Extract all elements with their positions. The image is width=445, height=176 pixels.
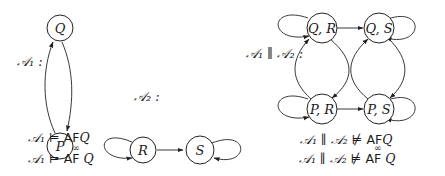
edge-qr-self-loop [278,15,309,37]
state-s: S [186,136,214,164]
svg-text:R: R [137,143,148,158]
formula-a1-af-inf-q: 𝒜₁ ⊨ A∞F Q [28,151,94,167]
automaton-product: Q, R Q, S P, R P, S [278,13,415,124]
svg-text:P, S: P, S [366,102,390,117]
automaton-a2-label: 𝒜₂ : [134,89,160,105]
infinity-mark: ∞ [374,143,381,153]
edge-pr-self-loop [278,96,309,118]
state-q-s: Q, S [364,13,394,43]
edge-r-self-loop [104,138,132,158]
state-p-s: P, S [364,94,394,124]
formula-product-af-inf-q: 𝒜₁ ∥ 𝒜₂ ⊭ A∞F Q [299,151,395,167]
state-r: R [130,137,156,163]
svg-text:Q, S: Q, S [365,21,392,36]
svg-text:Q: Q [55,21,66,36]
automaton-product-label: 𝒜₁ ∥ 𝒜₂ : [246,46,303,62]
infinity-mark: ∞ [72,143,79,153]
edge-s-self-loop [212,140,241,160]
edge-qs-to-ps [389,39,405,98]
formula-a1-af-q: 𝒜₁ ⊨ AFQ [28,130,90,146]
svg-text:S: S [196,143,205,158]
svg-text:Q, R: Q, R [308,21,336,36]
edge-q-to-p [62,42,72,131]
edge-qr-to-pr [330,39,349,98]
state-q: Q [47,15,73,41]
automaton-a1-label: 𝒜₁ : [17,54,43,70]
edge-ps-to-qs [351,39,368,99]
state-p-r: P, R [307,94,337,124]
automaton-a2: R S [104,136,241,164]
svg-text:P, R: P, R [309,102,334,117]
state-q-r: Q, R [307,13,337,43]
edge-p-to-q [45,42,55,133]
